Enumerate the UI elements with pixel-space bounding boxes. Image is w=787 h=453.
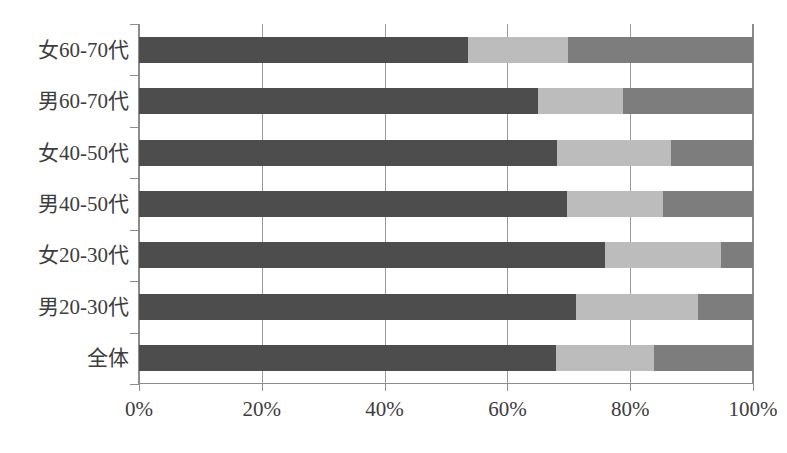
y-axis-label-6: 全体 xyxy=(87,346,129,370)
y-tick-5 xyxy=(130,281,139,282)
y-tick-6 xyxy=(130,333,139,334)
bar-row xyxy=(139,345,753,371)
y-tick-0 xyxy=(130,24,139,25)
bar-segment-2 xyxy=(567,191,663,217)
bar-segment-3 xyxy=(721,242,753,268)
bar-segment-3 xyxy=(671,140,753,166)
bar-row xyxy=(139,294,753,320)
y-tick-1 xyxy=(130,75,139,76)
y-axis-label-5: 男20-30代 xyxy=(38,295,129,319)
x-tick-80 xyxy=(630,383,631,391)
x-tick-60 xyxy=(507,383,508,391)
bar-segment-1 xyxy=(139,37,468,63)
y-tick-3 xyxy=(130,178,139,179)
bar-segment-1 xyxy=(139,191,567,217)
bar-segment-2 xyxy=(576,294,698,320)
x-axis-label-0: 0% xyxy=(125,397,153,422)
y-tick-7 xyxy=(130,384,139,385)
bar-row xyxy=(139,242,753,268)
bar-segment-3 xyxy=(623,88,753,114)
y-axis-label-1: 男60-70代 xyxy=(38,89,129,113)
x-tick-0 xyxy=(139,383,140,391)
x-tick-40 xyxy=(385,383,386,391)
x-axis-label-60: 60% xyxy=(488,397,527,422)
y-axis-label-0: 女60-70代 xyxy=(38,38,129,62)
x-axis-label-20: 20% xyxy=(243,397,282,422)
bar-segment-3 xyxy=(568,37,753,63)
bar-row xyxy=(139,88,753,114)
y-axis-category-labels: 女60-70代男60-70代女40-50代男40-50代女20-30代男20-3… xyxy=(0,24,133,384)
plot-area xyxy=(139,24,753,384)
bar-row xyxy=(139,191,753,217)
x-axis-label-100: 100% xyxy=(729,397,778,422)
bar-segment-3 xyxy=(654,345,753,371)
bar-segment-1 xyxy=(139,294,576,320)
bar-row xyxy=(139,37,753,63)
stacked-bar-chart: 女60-70代男60-70代女40-50代男40-50代女20-30代男20-3… xyxy=(0,0,787,453)
bar-segment-2 xyxy=(557,140,671,166)
bar-segment-1 xyxy=(139,345,556,371)
y-axis-label-2: 女40-50代 xyxy=(38,141,129,165)
x-axis-label-40: 40% xyxy=(365,397,404,422)
x-axis-tick-labels: 0%20%40%60%80%100% xyxy=(139,397,753,437)
bar-segment-3 xyxy=(698,294,753,320)
y-axis-label-3: 男40-50代 xyxy=(38,192,129,216)
bar-segment-1 xyxy=(139,242,605,268)
x-axis-label-80: 80% xyxy=(611,397,650,422)
x-tick-100 xyxy=(753,383,754,391)
bar-segment-2 xyxy=(538,88,623,114)
bar-segment-1 xyxy=(139,88,538,114)
y-axis-label-4: 女20-30代 xyxy=(38,243,129,267)
bar-segment-3 xyxy=(663,191,753,217)
bar-segment-2 xyxy=(556,345,654,371)
bar-row xyxy=(139,140,753,166)
y-tick-4 xyxy=(130,230,139,231)
bar-segment-1 xyxy=(139,140,557,166)
bar-segment-2 xyxy=(468,37,568,63)
x-tick-20 xyxy=(262,383,263,391)
x-axis-line xyxy=(139,383,753,384)
bar-segment-2 xyxy=(605,242,721,268)
y-tick-2 xyxy=(130,127,139,128)
